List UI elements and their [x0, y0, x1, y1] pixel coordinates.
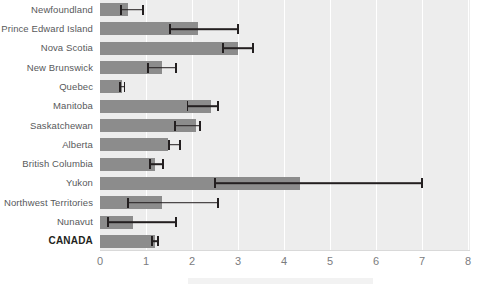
- error-bar-line: [121, 9, 143, 11]
- category-label: Saskatchewan: [0, 120, 93, 131]
- error-bar-line: [223, 47, 253, 49]
- x-tick-label: 6: [373, 255, 379, 267]
- bar-row: [100, 61, 470, 74]
- error-bar-cap-low: [127, 198, 129, 208]
- category-label: Northwest Territories: [0, 197, 93, 208]
- error-bar-line: [150, 163, 163, 165]
- x-tick-label: 7: [419, 255, 425, 267]
- error-bar-cap-low: [107, 217, 109, 227]
- error-bar-cap-low: [187, 101, 189, 111]
- category-label: Quebec: [0, 81, 93, 92]
- error-bar-cap-high: [162, 159, 164, 169]
- error-bar-cap-high: [421, 178, 423, 188]
- error-bar-cap-high: [175, 63, 177, 73]
- x-axis: 012345678: [100, 251, 470, 275]
- error-bar-cap-high: [142, 5, 144, 15]
- error-bar-line: [128, 202, 218, 204]
- error-bar-cap-low: [149, 159, 151, 169]
- error-bar-cap-high: [237, 24, 239, 34]
- error-bar-line: [175, 125, 200, 127]
- category-label: Nova Scotia: [0, 42, 93, 53]
- bar: [100, 235, 155, 248]
- x-tick-label: 0: [97, 255, 103, 267]
- error-bar-line: [170, 28, 238, 30]
- error-bar-cap-high: [252, 43, 254, 53]
- error-bar-line: [215, 183, 422, 185]
- error-bar-cap-low: [214, 178, 216, 188]
- bar-row: [100, 196, 470, 209]
- category-label: Manitoba: [0, 100, 93, 111]
- bar-row: [100, 138, 470, 151]
- error-bar-cap-high: [217, 101, 219, 111]
- x-tick-label: 4: [281, 255, 287, 267]
- error-bar-line: [187, 105, 218, 107]
- error-bar-cap-low: [168, 140, 170, 150]
- error-bar-cap-high: [199, 121, 201, 131]
- error-bar-cap-high: [179, 140, 181, 150]
- x-tick-label: 2: [189, 255, 195, 267]
- category-label: Newfoundland: [0, 4, 93, 15]
- error-bar-line: [108, 221, 176, 223]
- x-tick-label: 1: [143, 255, 149, 267]
- error-bar-cap-low: [222, 43, 224, 53]
- category-label: Prince Edward Island: [0, 23, 93, 34]
- plot-area: [100, 0, 470, 251]
- x-tick-label: 8: [465, 255, 471, 267]
- category-label: British Columbia: [0, 158, 93, 169]
- bar-row: [100, 80, 470, 93]
- category-label-column: NewfoundlandPrince Edward IslandNova Sco…: [0, 0, 97, 251]
- bar: [100, 158, 155, 171]
- error-bar-cap-high: [175, 217, 177, 227]
- x-tick-label: 3: [235, 255, 241, 267]
- bar: [100, 138, 168, 151]
- category-label: Yukon: [0, 177, 93, 188]
- category-label: Alberta: [0, 139, 93, 150]
- bar-row: [100, 100, 470, 113]
- error-bar-cap-low: [151, 236, 153, 246]
- error-bar-cap-high: [217, 198, 219, 208]
- category-label: Nunavut: [0, 216, 93, 227]
- bar-row: [100, 158, 470, 171]
- error-bar-cap-low: [147, 63, 149, 73]
- bar-row: [100, 3, 470, 16]
- error-bar-cap-high: [124, 82, 126, 92]
- category-label: New Brunswick: [0, 62, 93, 73]
- bar-row: [100, 22, 470, 35]
- bar-row: [100, 42, 470, 55]
- error-bar-line: [148, 67, 176, 69]
- error-bar-cap-high: [157, 236, 159, 246]
- error-bar-cap-low: [119, 82, 121, 92]
- x-tick-label: 5: [327, 255, 333, 267]
- bar-row: [100, 216, 470, 229]
- bar-chart: NewfoundlandPrince Edward IslandNova Sco…: [0, 0, 479, 286]
- bar-row: [100, 119, 470, 132]
- category-label: CANADA: [0, 235, 93, 246]
- footer-strip: [188, 278, 373, 284]
- bar: [100, 42, 238, 55]
- bar-row: [100, 177, 470, 190]
- error-bar-cap-low: [120, 5, 122, 15]
- error-bar-cap-low: [169, 24, 171, 34]
- bar-row: [100, 235, 470, 248]
- error-bar-cap-low: [174, 121, 176, 131]
